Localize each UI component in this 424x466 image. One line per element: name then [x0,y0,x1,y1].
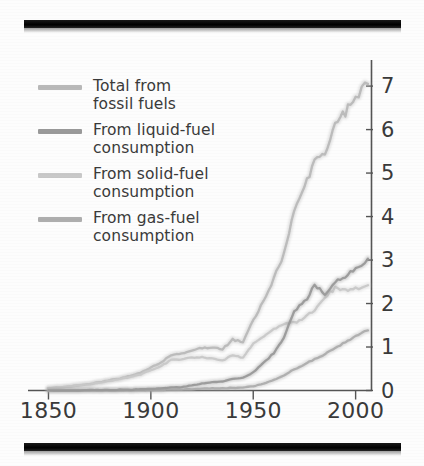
figure-page: Total from fossil fuels From liquid-fuel… [0,0,424,466]
x-tick-label: 1850 [20,400,77,422]
y-tick-label: 1 [381,337,394,358]
y-tick-label: 2 [381,293,394,314]
legend-swatch-solid-fuel [38,173,82,178]
legend-label-liquid-fuel: From liquid-fuel consumption [93,122,215,157]
x-tick-label: 1900 [122,400,179,422]
legend-item-gas-fuel[interactable]: From gas-fuel consumption [38,210,253,245]
series-line-from-liquid-fuel-consumption[interactable] [48,259,367,391]
legend-swatch-total [38,85,82,90]
series-halo-from-liquid-fuel-consumption [48,259,367,391]
line-chart: Total from fossil fuels From liquid-fuel… [0,0,424,466]
x-tick-label: 2000 [327,400,384,422]
bottom-printing-bar [24,443,401,451]
legend-item-solid-fuel[interactable]: From solid-fuel consumption [38,166,253,201]
legend-item-total[interactable]: Total from fossil fuels [38,78,253,113]
legend-label-gas-fuel: From gas-fuel consumption [93,210,200,245]
y-tick-label: 5 [381,163,394,184]
series-halo-from-solid-fuel-consumption [48,285,367,388]
legend-label-total: Total from fossil fuels [93,78,176,113]
legend-swatch-gas-fuel [38,217,82,222]
y-tick-label: 4 [381,206,394,227]
y-tick-label: 7 [381,76,394,97]
chart-legend: Total from fossil fuels From liquid-fuel… [38,78,253,254]
y-tick-label: 6 [381,119,394,140]
x-tick-label: 1950 [225,400,282,422]
legend-swatch-liquid-fuel [38,129,82,134]
legend-label-solid-fuel: From solid-fuel consumption [93,166,209,201]
y-tick-label: 3 [381,250,394,271]
legend-item-liquid-fuel[interactable]: From liquid-fuel consumption [38,122,253,157]
